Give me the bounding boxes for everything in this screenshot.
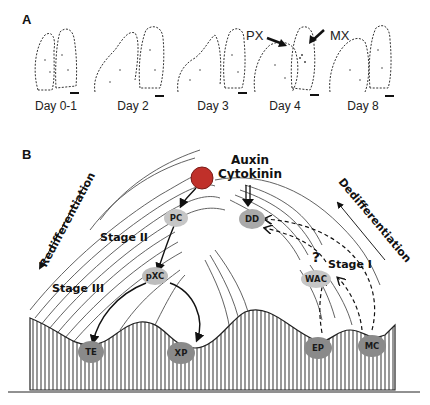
cell-xp: XP: [167, 342, 195, 364]
dedifferentiation-label: Dedifferentiation: [336, 176, 414, 266]
arrow-pxc-to-xp: [170, 283, 200, 340]
stage-2-label: Stage II: [100, 231, 148, 244]
panel-b-landscape-diagram: PC DD WAC pXC TE XP EP MC Auxin Cytokini…: [0, 0, 430, 405]
svg-text:MC: MC: [365, 341, 380, 351]
cell-dd: DD: [239, 209, 265, 229]
redifferentiation-label: Redifferentiation: [37, 170, 98, 269]
cell-ep: EP: [304, 337, 332, 359]
hormone-arrow: [242, 185, 254, 207]
auxin-label: Auxin: [231, 153, 269, 167]
svg-text:XP: XP: [175, 348, 188, 358]
svg-text:PC: PC: [170, 213, 182, 223]
svg-text:EP: EP: [312, 343, 324, 353]
question-mark: ?: [312, 249, 320, 265]
stage-1-label: Stage I: [328, 258, 372, 271]
arrow-mc-to-wac: [338, 278, 362, 330]
cell-mc: MC: [358, 335, 386, 357]
cytokinin-label: Cytokinin: [218, 167, 282, 181]
svg-text:WAC: WAC: [305, 274, 327, 284]
svg-text:pXC: pXC: [146, 271, 165, 281]
svg-text:DD: DD: [245, 214, 259, 224]
stage-3-label: Stage III: [52, 282, 104, 295]
cell-wac: WAC: [301, 270, 331, 288]
cell-pc: PC: [164, 209, 188, 227]
cell-te: TE: [78, 341, 104, 363]
cell-pxc: pXC: [142, 267, 168, 285]
svg-text:TE: TE: [85, 347, 97, 357]
arrow-pc-to-pxc: [158, 226, 174, 270]
red-ball-icon: [191, 167, 213, 189]
